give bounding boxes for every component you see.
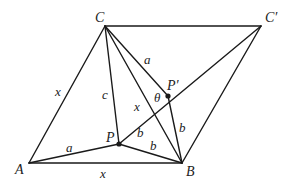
label-theta-angle: θ — [154, 90, 161, 105]
label-a-cp-prime: a — [144, 52, 151, 67]
label-vertex-c-prime: C′ — [265, 10, 278, 25]
segment-cp — [105, 26, 119, 144]
point-p — [116, 141, 121, 146]
label-b-pb: b — [150, 138, 157, 153]
label-x-ab: x — [99, 166, 106, 181]
label-vertex-b: B — [186, 164, 195, 179]
point-p-prime — [165, 93, 170, 98]
label-x-cb: x — [133, 99, 140, 114]
label-b-p-prime-b: b — [179, 120, 186, 135]
label-a-ap: a — [66, 140, 73, 155]
label-b-pp-prime: b — [137, 125, 144, 140]
segment-c-prime-b — [182, 26, 261, 163]
label-vertex-a: A — [14, 162, 24, 177]
segment-cp-prime — [105, 26, 168, 96]
label-c-cp: c — [102, 87, 108, 102]
segment-ap — [29, 144, 119, 163]
label-point-p: P — [105, 130, 115, 145]
geometry-diagram: C C′ A B P P′ x x x a a c b b b θ — [0, 0, 288, 185]
label-point-p-prime: P′ — [166, 78, 180, 93]
label-x-ac: x — [54, 84, 61, 99]
label-vertex-c: C — [95, 10, 105, 25]
segment-cb — [105, 26, 182, 163]
